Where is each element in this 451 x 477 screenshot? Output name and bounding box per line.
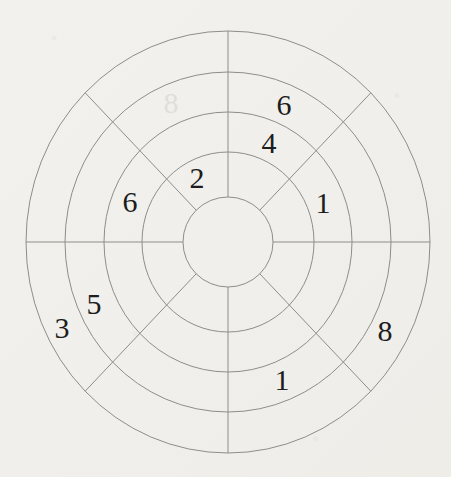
scanned-puzzle-page: 8641813562: [0, 0, 451, 477]
cell-value-ne-e-ring2: 1: [316, 186, 331, 219]
cell-value-nw-n-ring1: 2: [190, 161, 205, 194]
inner-circle: [183, 197, 273, 287]
bleedthrough-ghost-glyph: 8: [164, 86, 179, 119]
cell-value-se-s-ring3: 1: [275, 363, 290, 396]
cell-value-w-nw-ring2: 6: [123, 185, 138, 218]
cell-value-n-ne-ring2: 4: [262, 126, 277, 159]
cell-value-sw-w-ring3: 5: [87, 287, 102, 320]
sector-spoke-225deg: [85, 274, 196, 391]
sector-spoke-315deg: [85, 93, 196, 210]
cell-value-e-se-ring4: 8: [378, 314, 393, 347]
cell-value-sw-w-ring4: 3: [55, 311, 70, 344]
cell-value-n-ne-ring3: 6: [277, 88, 292, 121]
puzzle-svg: 8641813562: [0, 0, 451, 477]
